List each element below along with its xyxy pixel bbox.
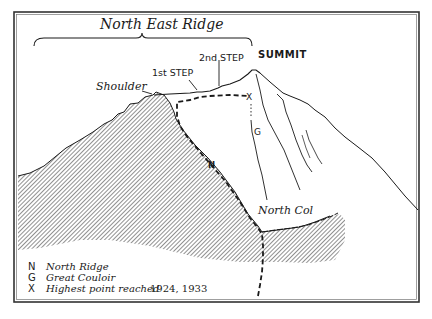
legend-text: Highest point reached xyxy=(45,283,159,294)
north-ridge-hatched-mass xyxy=(18,92,345,263)
legend-text: North Ridge xyxy=(45,261,109,272)
legend: N North Ridge G Great Couloir X Highest … xyxy=(28,261,207,294)
legend-item-highest-point: X Highest point reached 1924, 1933 xyxy=(28,283,207,294)
label-north-col: North Col xyxy=(257,204,314,217)
label-north-ridge-marker: N xyxy=(208,160,215,170)
everest-north-face-diagram: North East Ridge X SUMMIT 2nd STEP 1st S… xyxy=(0,0,432,319)
summit-east-slope xyxy=(260,73,418,210)
legend-key: N xyxy=(28,261,35,272)
legend-key: G xyxy=(28,272,36,283)
label-great-couloir-marker: G xyxy=(254,127,261,137)
label-first-step: 1st STEP xyxy=(152,67,194,78)
legend-key: X xyxy=(28,283,35,294)
title-north-east-ridge: North East Ridge xyxy=(99,16,224,32)
label-shoulder: Shoulder xyxy=(96,80,147,93)
legend-text: Great Couloir xyxy=(46,272,116,283)
legend-item-great-couloir: G Great Couloir xyxy=(28,272,116,283)
ridge-bracket xyxy=(34,33,252,46)
highest-point-marker: X xyxy=(246,92,252,102)
legend-years: 1924, 1933 xyxy=(150,283,207,294)
label-second-step: 2nd STEP xyxy=(199,52,244,63)
label-summit: SUMMIT xyxy=(258,49,307,60)
legend-item-north-ridge: N North Ridge xyxy=(28,261,109,272)
